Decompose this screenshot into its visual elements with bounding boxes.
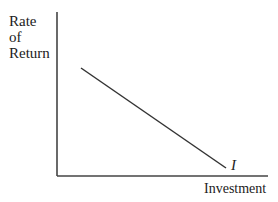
x-axis-label: Investment [204,181,266,197]
curve-label: I [231,157,236,173]
investment-demand-curve [81,68,226,168]
chart-plot [0,0,278,202]
